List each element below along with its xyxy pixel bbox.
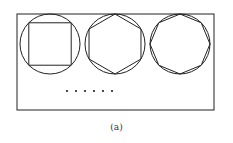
circle-with-hexagon [85, 14, 145, 74]
ellipsis-dots [66, 90, 113, 92]
dot [84, 90, 86, 92]
dot [75, 90, 77, 92]
circle-with-square [20, 14, 80, 74]
circle [85, 14, 145, 74]
dot [93, 90, 95, 92]
inscribed-polygon [89, 14, 141, 74]
shapes-group [20, 14, 210, 74]
dot [111, 90, 113, 92]
diagram-frame [17, 14, 214, 110]
dot [102, 90, 104, 92]
inscribed-polygon [150, 14, 210, 74]
figure-caption: (a) [0, 122, 233, 132]
circle-with-octagon [150, 14, 210, 74]
dot [66, 90, 68, 92]
inscribed-polygon [29, 23, 71, 65]
